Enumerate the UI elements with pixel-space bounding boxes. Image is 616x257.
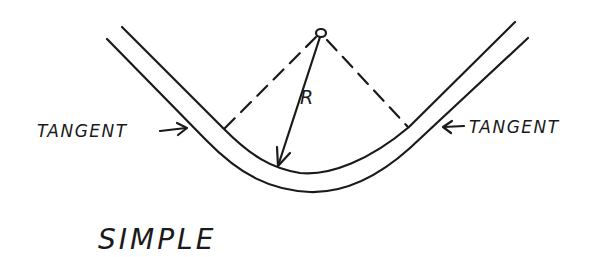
right-tangent-label: TANGENT xyxy=(469,117,560,137)
radius-arrow-line xyxy=(278,37,320,166)
left-tangent-label: TANGENT xyxy=(37,121,128,141)
diagram-title: SIMPLE xyxy=(98,223,216,256)
left-radius-dashed-line xyxy=(224,37,316,129)
curve-outer-edge xyxy=(107,38,528,192)
simple-curve-diagram: R TANGENT TANGENT SIMPLE xyxy=(0,0,616,257)
right-radius-dashed-line xyxy=(327,40,408,127)
right-tangent-arrow-line xyxy=(444,126,464,127)
radius-label: R xyxy=(300,86,313,108)
curve-center-point xyxy=(316,29,326,37)
